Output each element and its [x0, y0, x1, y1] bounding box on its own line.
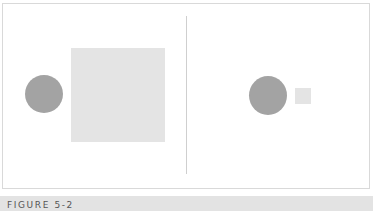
figure-caption: FIGURE 5-2 [7, 200, 74, 210]
left-large-square [71, 48, 165, 142]
panel-divider [186, 16, 187, 174]
right-small-square [295, 88, 311, 104]
right-circle [249, 76, 287, 115]
left-circle [25, 75, 63, 113]
caption-band: FIGURE 5-2 [0, 196, 373, 211]
